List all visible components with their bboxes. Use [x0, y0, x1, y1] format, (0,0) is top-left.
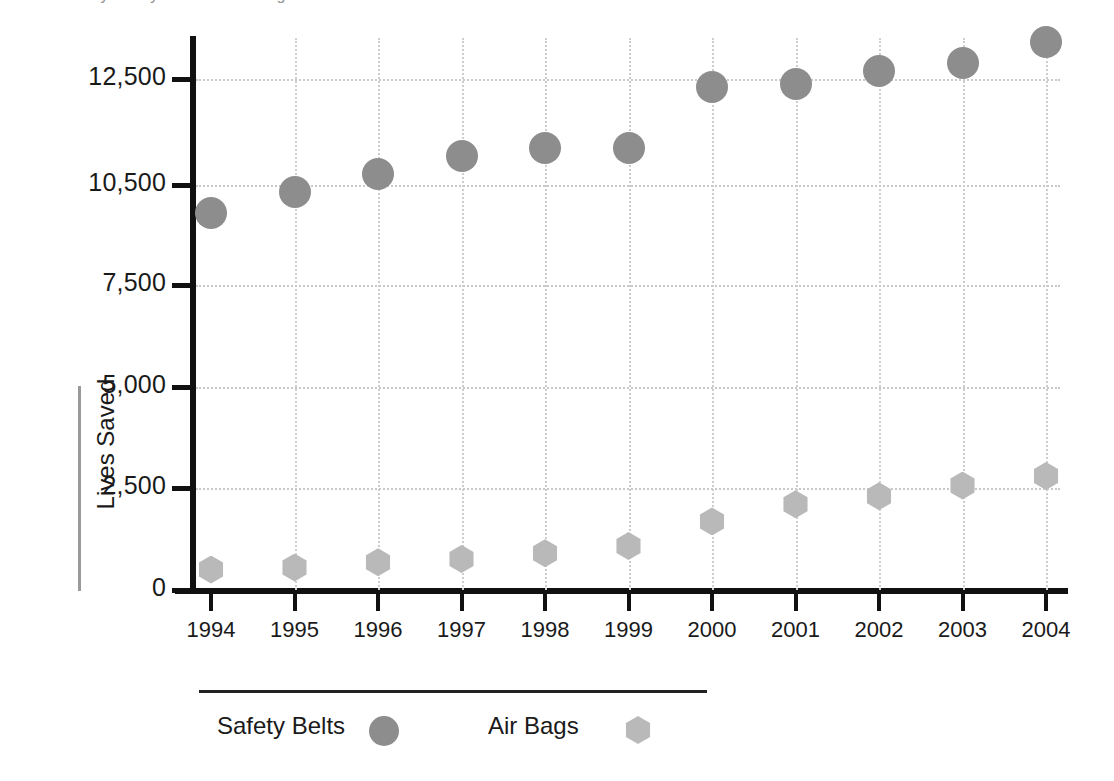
gridline-vertical [295, 38, 297, 590]
data-point-belts [863, 55, 895, 87]
y-axis-tick [172, 283, 192, 288]
x-axis-tick-label: 2001 [751, 617, 841, 643]
chart-title-text: Lives Saved by Safety Belts and Air Bags [0, 0, 740, 4]
data-point-belts [696, 71, 728, 103]
x-axis-tick [376, 594, 380, 611]
y-axis-title: Lives Saved [92, 324, 120, 564]
data-point-belts [780, 68, 812, 100]
legend-label-safety-belts: Safety Belts [217, 712, 345, 740]
x-axis-tick-label: 2003 [918, 617, 1008, 643]
data-point-belts [947, 47, 979, 79]
plot-area [196, 38, 1060, 590]
chart-canvas: Lives Saved by Safety Belts and Air Bags… [0, 0, 1114, 781]
x-axis-tick-label: 2000 [667, 617, 757, 643]
x-axis-tick-label: 1997 [417, 617, 507, 643]
chart-title-clipped: Lives Saved by Safety Belts and Air Bags [0, 0, 740, 6]
legend-items: Safety BeltsAir Bags [199, 706, 719, 750]
filled-circle-icon [369, 716, 399, 746]
data-point-bags [197, 556, 225, 584]
gridline-vertical [378, 38, 380, 590]
gridline-vertical [712, 38, 714, 590]
legend-divider [199, 690, 707, 693]
filled-hexagon-icon [624, 716, 652, 744]
data-point-bags [782, 490, 810, 518]
gridline-vertical [462, 38, 464, 590]
y-axis-tick-label: 7,500 [38, 268, 166, 297]
data-point-bags [949, 472, 977, 500]
data-point-bags [531, 539, 559, 567]
gridline-vertical [963, 38, 965, 590]
x-axis-tick-label: 1996 [333, 617, 423, 643]
x-axis-tick [877, 594, 881, 611]
data-point-bags [281, 554, 309, 582]
y-axis-tick-label: 5,000 [38, 370, 166, 399]
x-axis-tick [961, 594, 965, 611]
x-axis-tick [1044, 594, 1048, 611]
data-point-belts [279, 176, 311, 208]
gridline-vertical [545, 38, 547, 590]
x-axis-tick [543, 594, 547, 611]
y-axis-tick [172, 588, 192, 593]
gridline-vertical [1046, 38, 1048, 590]
gridline-vertical [629, 38, 631, 590]
data-point-belts [446, 140, 478, 172]
x-axis-tick [293, 594, 297, 611]
data-point-bags [865, 482, 893, 510]
data-point-belts [362, 158, 394, 190]
x-axis-tick-label: 1995 [250, 617, 340, 643]
x-axis-tick-label: 1998 [500, 617, 590, 643]
x-axis-tick [627, 594, 631, 611]
y-axis-tick [172, 77, 192, 82]
data-point-bags [615, 532, 643, 560]
data-point-belts [529, 132, 561, 164]
x-axis-tick [460, 594, 464, 611]
y-axis-tick [172, 385, 192, 390]
y-axis-tick-label: 12,500 [38, 62, 166, 91]
y-axis-tick-label: 0 [38, 573, 166, 602]
data-point-bags [448, 545, 476, 573]
y-axis-tick [172, 486, 192, 491]
data-point-bags [698, 507, 726, 535]
x-axis-tick-label: 1999 [584, 617, 674, 643]
data-point-belts [195, 197, 227, 229]
data-point-belts [1030, 26, 1062, 58]
x-axis-tick [209, 594, 213, 611]
legend-label-air-bags: Air Bags [488, 712, 579, 740]
y-axis-tick-label: 2,500 [38, 471, 166, 500]
y-axis-tick [172, 183, 192, 188]
data-point-belts [613, 132, 645, 164]
x-axis-tick-label: 2004 [1001, 617, 1091, 643]
y-axis-tick-label: 10,500 [38, 168, 166, 197]
x-axis-tick [794, 594, 798, 611]
x-axis-tick [710, 594, 714, 611]
data-point-bags [1032, 462, 1060, 490]
x-axis-tick-label: 2002 [834, 617, 924, 643]
data-point-bags [364, 548, 392, 576]
x-axis-tick-label: 1994 [166, 617, 256, 643]
